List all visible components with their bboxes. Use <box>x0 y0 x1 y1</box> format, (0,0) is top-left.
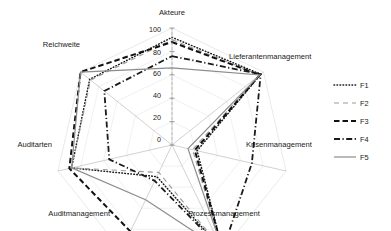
legend-label-F2: F2 <box>360 99 369 108</box>
radar-chart-figure: 100 80 60 40 20 0 Akteure Lieferantenman… <box>0 0 391 231</box>
series-polygon-F4 <box>104 56 260 231</box>
radial-tick-100: 100 <box>149 25 161 34</box>
radial-tick-40: 40 <box>153 91 161 100</box>
radial-tick-60: 60 <box>153 69 161 78</box>
axis-label-reichweite: Reichweite <box>43 40 80 49</box>
legend: F1F2F3F4F5 <box>334 81 369 162</box>
radial-tick-80: 80 <box>153 48 161 57</box>
series-layer <box>69 37 260 231</box>
radial-tick-0: 0 <box>157 135 161 144</box>
axis-label-prozessmanagement: Prozessmanagement <box>188 209 261 218</box>
axis-label-auditarten: Auditarten <box>17 140 52 149</box>
legend-label-F3: F3 <box>360 117 369 126</box>
legend-label-F4: F4 <box>360 135 369 144</box>
axis-spoke-5 <box>58 145 172 171</box>
axis-label-krisenmanagement: Krisenmanagement <box>246 140 313 149</box>
axis-label-akteure: Akteure <box>159 8 185 17</box>
axis-label-auditmanagement: Auditmanagement <box>48 209 111 218</box>
radial-tick-20: 20 <box>153 113 161 122</box>
axis-spoke-4 <box>121 145 172 231</box>
legend-label-F5: F5 <box>360 153 369 162</box>
radar-chart-canvas: 100 80 60 40 20 0 Akteure Lieferantenman… <box>0 0 391 231</box>
series-polygon-F5 <box>72 68 260 231</box>
axis-spoke-3 <box>172 145 223 231</box>
legend-label-F1: F1 <box>360 81 369 90</box>
axis-label-lieferantenmanagement: Lieferantenmanagement <box>229 52 312 61</box>
series-polygon-F3 <box>69 42 259 231</box>
axis-spoke-1 <box>172 72 263 145</box>
